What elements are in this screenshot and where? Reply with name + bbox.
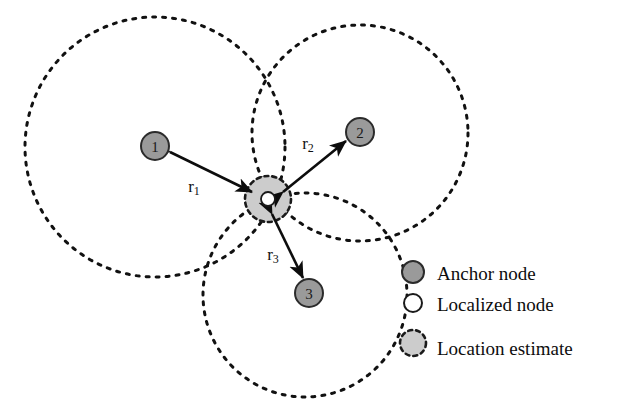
localization-diagram: 1 2 3 r1 r2 r3 Anchor node Localized nod…	[0, 0, 632, 408]
range-label-r2-subscript: 2	[308, 141, 314, 155]
anchor-node-3: 3	[295, 279, 323, 307]
legend-item-anchor: Anchor node	[402, 261, 536, 284]
figure-root: 1 2 3 r1 r2 r3 Anchor node Localized nod…	[0, 0, 632, 408]
legend-swatch-anchor-node-icon	[402, 261, 424, 283]
range-label-r1-subscript: 1	[194, 184, 200, 198]
range-arrow-3	[272, 214, 303, 278]
legend-label-localized-node: Localized node	[437, 294, 554, 315]
legend: Anchor node Localized node Location esti…	[400, 261, 573, 359]
range-label-r2: r2	[302, 134, 314, 156]
anchor-node-3-label: 3	[305, 286, 313, 302]
anchor-node-1-label: 1	[151, 139, 159, 155]
range-arrow-2	[283, 141, 346, 192]
anchor-node-2-label: 2	[356, 125, 364, 141]
legend-label-anchor-node: Anchor node	[437, 263, 536, 284]
anchor-node-1: 1	[141, 132, 169, 160]
legend-item-localized: Localized node	[404, 294, 554, 315]
localized-node	[261, 192, 275, 206]
range-label-r3-subscript: 3	[273, 252, 279, 266]
legend-swatch-localized-node-icon	[404, 294, 422, 312]
range-arrow-1	[170, 152, 252, 192]
legend-label-location-estimate: Location estimate	[437, 338, 573, 359]
legend-swatch-location-estimate-icon	[400, 330, 426, 356]
legend-item-estimate: Location estimate	[400, 330, 573, 359]
range-label-r3: r3	[267, 245, 279, 267]
anchor-node-2: 2	[346, 118, 374, 146]
range-label-r1: r1	[188, 177, 200, 199]
